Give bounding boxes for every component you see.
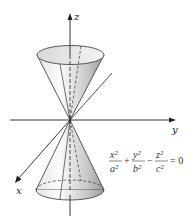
double-cone-diagram: z y x x² a² + y² b² − z² c² = 0 [0,0,194,219]
eq-rhs: = 0 [170,155,183,166]
x-axis-label: x [16,185,22,196]
eq-term3-den: c² [156,163,164,174]
upper-cone [37,46,104,121]
z-arrow-icon [68,13,73,20]
y-axis: y [10,118,178,136]
eq-term2-den: b² [133,163,142,174]
z-axis-label: z [73,11,80,22]
cone-equation: x² a² + y² b² − z² c² = 0 [109,149,183,174]
y-axis-label: y [171,124,178,135]
y-arrow-icon [169,118,176,123]
eq-op2: − [147,155,153,166]
eq-op1: + [124,155,130,166]
eq-term1-num: x² [109,149,118,160]
eq-term3-num: z² [155,149,164,160]
eq-term2-num: y² [132,149,141,160]
eq-term1-den: a² [110,163,119,174]
